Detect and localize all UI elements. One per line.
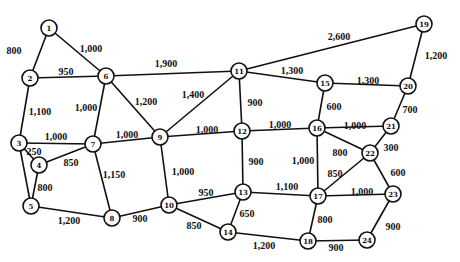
node-id-label: 5 bbox=[29, 202, 34, 211]
edge-weight-label: 900 bbox=[329, 242, 344, 253]
edge-weight-label: 1,000 bbox=[172, 166, 195, 177]
node-id-label: 23 bbox=[388, 190, 398, 199]
node-id-label: 4 bbox=[37, 161, 42, 170]
edge-weight-label: 1,200 bbox=[253, 240, 276, 251]
network-svg: 8001,0009501,1001,0001,2001,9001,0002508… bbox=[0, 0, 460, 262]
node-id-label: 17 bbox=[313, 192, 323, 201]
node-id-label: 16 bbox=[312, 124, 322, 133]
edges-layer bbox=[19, 24, 424, 241]
edge-weight-label: 1,000 bbox=[292, 155, 315, 166]
node-id-label: 22 bbox=[365, 149, 375, 158]
node-9: 9 bbox=[152, 129, 168, 145]
edge-11-12 bbox=[239, 71, 242, 131]
node-13: 13 bbox=[235, 184, 251, 200]
edge-weight-label: 1,200 bbox=[135, 96, 158, 107]
node-id-label: 8 bbox=[110, 214, 115, 223]
node-id-label: 1 bbox=[47, 24, 52, 33]
node-id-label: 24 bbox=[362, 236, 372, 245]
edge-13-17 bbox=[243, 192, 318, 196]
edge-weight-label: 1,100 bbox=[29, 106, 52, 117]
node-12: 12 bbox=[234, 123, 250, 139]
node-id-label: 15 bbox=[320, 79, 330, 88]
node-1: 1 bbox=[41, 20, 57, 36]
node-10: 10 bbox=[161, 197, 177, 213]
node-id-label: 9 bbox=[158, 133, 163, 142]
edge-labels-layer: 8001,0009501,1001,0001,2001,9001,0002508… bbox=[7, 31, 448, 253]
node-3: 3 bbox=[11, 135, 27, 151]
node-id-label: 11 bbox=[234, 67, 244, 76]
edge-weight-label: 1,200 bbox=[425, 50, 448, 61]
node-id-label: 13 bbox=[238, 188, 248, 197]
edge-weight-label: 1,000 bbox=[269, 119, 292, 130]
edge-weight-label: 1,300 bbox=[357, 75, 380, 86]
network-diagram: 8001,0009501,1001,0001,2001,9001,0002508… bbox=[0, 0, 460, 262]
edge-weight-label: 900 bbox=[248, 97, 263, 108]
edge-weight-label: 800 bbox=[7, 45, 22, 56]
edge-6-11 bbox=[106, 71, 239, 76]
edge-weight-label: 800 bbox=[318, 214, 333, 225]
edge-weight-label: 650 bbox=[240, 208, 255, 219]
edge-weight-label: 1,200 bbox=[58, 215, 81, 226]
node-id-label: 10 bbox=[164, 201, 174, 210]
edge-weight-label: 950 bbox=[59, 66, 74, 77]
edge-weight-label: 1,150 bbox=[103, 169, 126, 180]
edge-weight-label: 1,100 bbox=[276, 181, 299, 192]
edge-weight-label: 1,000 bbox=[45, 131, 68, 142]
node-11: 11 bbox=[231, 63, 247, 79]
edge-weight-label: 1,400 bbox=[182, 89, 205, 100]
edge-weight-label: 850 bbox=[187, 220, 202, 231]
edge-weight-label: 1,000 bbox=[196, 124, 219, 135]
node-id-label: 7 bbox=[91, 140, 96, 149]
edge-weight-label: 2,600 bbox=[328, 31, 351, 42]
node-20: 20 bbox=[400, 78, 416, 94]
node-24: 24 bbox=[359, 232, 375, 248]
node-id-label: 19 bbox=[419, 20, 429, 29]
node-2: 2 bbox=[22, 70, 38, 86]
edge-weight-label: 700 bbox=[403, 104, 418, 115]
node-6: 6 bbox=[98, 68, 114, 84]
edge-weight-label: 900 bbox=[133, 213, 148, 224]
edge-12-13 bbox=[242, 131, 243, 192]
edge-weight-label: 250 bbox=[27, 146, 42, 157]
node-id-label: 6 bbox=[104, 72, 109, 81]
node-19: 19 bbox=[416, 16, 432, 32]
edge-weight-label: 850 bbox=[328, 168, 343, 179]
node-id-label: 3 bbox=[17, 139, 22, 148]
edge-weight-label: 600 bbox=[327, 101, 342, 112]
edge-weight-label: 900 bbox=[386, 221, 401, 232]
node-id-label: 12 bbox=[237, 127, 247, 136]
node-7: 7 bbox=[85, 136, 101, 152]
node-21: 21 bbox=[383, 118, 399, 134]
node-4: 4 bbox=[31, 157, 47, 173]
edge-weight-label: 1,000 bbox=[351, 186, 374, 197]
edge-weight-label: 1,000 bbox=[116, 129, 139, 140]
edge-weight-label: 800 bbox=[333, 147, 348, 158]
node-id-label: 18 bbox=[303, 237, 313, 246]
edge-7-8 bbox=[93, 144, 112, 218]
edge-16-17 bbox=[317, 128, 318, 196]
edge-3-7 bbox=[19, 143, 93, 144]
edge-weight-label: 800 bbox=[38, 182, 53, 193]
node-id-label: 20 bbox=[403, 82, 413, 91]
node-8: 8 bbox=[104, 210, 120, 226]
edge-weight-label: 300 bbox=[384, 142, 399, 153]
edge-weight-label: 850 bbox=[64, 157, 79, 168]
node-22: 22 bbox=[362, 145, 378, 161]
node-17: 17 bbox=[310, 188, 326, 204]
edge-weight-label: 600 bbox=[391, 167, 406, 178]
edge-weight-label: 1,000 bbox=[344, 120, 367, 131]
edge-weight-label: 1,000 bbox=[75, 102, 98, 113]
node-16: 16 bbox=[309, 120, 325, 136]
node-5: 5 bbox=[23, 198, 39, 214]
node-14: 14 bbox=[220, 224, 236, 240]
node-id-label: 2 bbox=[28, 74, 33, 83]
edge-9-10 bbox=[160, 137, 169, 205]
node-id-label: 14 bbox=[223, 228, 233, 237]
node-18: 18 bbox=[300, 233, 316, 249]
edge-weight-label: 900 bbox=[249, 156, 264, 167]
edge-weight-label: 950 bbox=[199, 187, 214, 198]
edge-19-20 bbox=[408, 24, 424, 86]
edge-weight-label: 1,000 bbox=[80, 43, 103, 54]
edge-weight-label: 1,300 bbox=[281, 65, 304, 76]
node-23: 23 bbox=[385, 186, 401, 202]
